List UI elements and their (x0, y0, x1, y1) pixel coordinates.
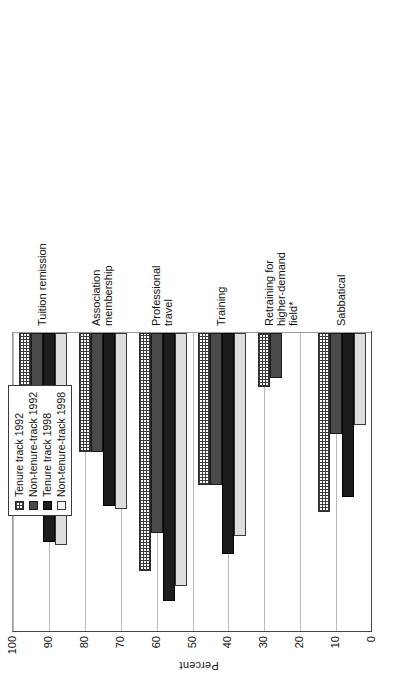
legend-item-0[interactable]: Tenure track 1992 (13, 392, 25, 510)
rotated-chart-wrapper: Percent 1009080706050403020100 Tuition r… (0, 0, 398, 676)
legend-swatch-icon (43, 501, 52, 510)
tick-label-90: 90 (42, 636, 54, 648)
bar (151, 333, 163, 533)
tick-label-80: 80 (78, 636, 90, 648)
bar (318, 333, 330, 512)
tick-label-20: 20 (293, 636, 305, 648)
legend-item-label: Tenure track 1998 (41, 413, 53, 497)
legend-item-1[interactable]: Non-tenure-track 1992 (27, 392, 39, 510)
bar (342, 333, 354, 497)
bar (79, 333, 91, 452)
tick-label-70: 70 (114, 636, 126, 648)
legend-swatch-icon (57, 501, 66, 510)
value-axis-ticks: 1009080706050403020100 (0, 634, 398, 658)
tick-label-30: 30 (257, 636, 269, 648)
tick-label-40: 40 (221, 636, 233, 648)
gridline (193, 333, 194, 631)
bar (270, 333, 282, 378)
tick-label-10: 10 (329, 636, 341, 648)
chart-legend: Tenure track 1992Non-tenure-track 1992Te… (8, 385, 72, 516)
bar (115, 333, 127, 509)
gridline (300, 333, 301, 631)
legend-swatch-icon (29, 501, 38, 510)
bar (91, 333, 103, 452)
tick-label-50: 50 (186, 636, 198, 648)
legend-item-3[interactable]: Non-tenure-track 1998 (55, 392, 67, 510)
chart-screenshot: Percent 1009080706050403020100 Tuition r… (0, 0, 398, 676)
bar (139, 333, 151, 571)
category-label-4: Retraining for higher-demand field* (263, 252, 299, 326)
bar (210, 333, 222, 485)
bar (234, 333, 246, 536)
bar (258, 333, 270, 387)
tick-label-0: 0 (365, 636, 377, 642)
category-label-0: Tuition remission (36, 243, 48, 326)
bar (175, 333, 187, 586)
legend-item-2[interactable]: Tenure track 1998 (41, 392, 53, 510)
bar (103, 333, 115, 506)
tick-label-60: 60 (150, 636, 162, 648)
tick-label-100: 100 (6, 636, 18, 654)
bar (198, 333, 210, 485)
category-label-2: Professional travel (150, 265, 174, 326)
legend-item-label: Non-tenure-track 1998 (55, 392, 67, 497)
caption-strip (0, 668, 398, 676)
bar (222, 333, 234, 554)
legend-swatch-icon (15, 501, 24, 510)
bar (330, 333, 342, 434)
chart-root: Percent 1009080706050403020100 Tuition r… (0, 0, 398, 676)
category-label-3: Training (215, 287, 227, 326)
category-label-1: Association membership (90, 265, 114, 326)
category-label-5: Sabbatical (335, 275, 347, 326)
legend-item-label: Non-tenure-track 1992 (27, 392, 39, 497)
bar (163, 333, 175, 601)
legend-item-label: Tenure track 1992 (13, 413, 25, 497)
bar (354, 333, 366, 425)
category-axis-labels: Tuition remissionAssociation membershipP… (12, 230, 372, 330)
category-axis-line (371, 331, 372, 632)
